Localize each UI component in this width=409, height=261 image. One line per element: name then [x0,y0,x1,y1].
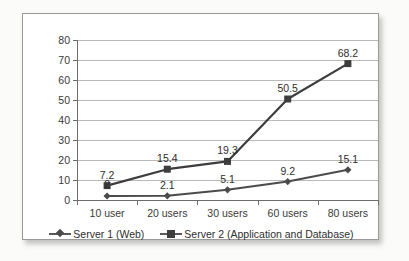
legend-label-server-1: Server 1 (Web) [73,228,144,240]
legend-marker-diamond-icon [49,228,71,239]
data-point-marker-square[interactable] [164,166,171,173]
y-axis-tick-mark [73,180,77,181]
y-axis-tick-mark [73,160,77,161]
legend-label-server-2: Server 2 (Application and Database) [184,228,353,240]
legend-marker-square-icon [160,228,182,239]
y-axis-tick-mark [73,80,77,81]
data-label-server-1: 9.2 [265,166,311,177]
chart-frame: 01020304050607080 10 user20 users30 user… [22,13,379,240]
data-point-marker-square[interactable] [284,96,291,103]
y-axis-tick-mark [73,60,77,61]
data-label-server-1: 2.1 [144,180,190,191]
y-axis-tick-mark [73,40,77,41]
y-axis-tick-mark [73,120,77,121]
data-point-marker-diamond[interactable] [284,178,291,185]
y-axis-tick-mark [73,100,77,101]
chart-legend: Server 1 (Web) Server 2 (Application and… [23,226,380,241]
y-axis-tick-mark [73,200,77,201]
data-point-marker-square[interactable] [344,60,351,67]
legend-entry-server-1[interactable]: Server 1 (Web) [49,228,144,240]
y-axis-tick-mark [73,140,77,141]
data-label-server-1: 2 [84,179,130,190]
series-line-2 [107,64,348,186]
data-label-server-1: 15.1 [325,154,371,165]
data-point-marker-diamond[interactable] [104,192,111,199]
data-label-server-2: 50.5 [265,83,311,94]
data-point-marker-diamond[interactable] [164,192,171,199]
data-label-server-2: 15.4 [144,153,190,164]
data-point-marker-diamond[interactable] [224,186,231,193]
data-point-marker-square[interactable] [224,158,231,165]
data-label-server-2: 19.3 [205,145,251,156]
data-label-server-1: 5.1 [205,174,251,185]
legend-entry-server-2[interactable]: Server 2 (Application and Database) [160,228,353,240]
data-point-marker-diamond[interactable] [344,166,351,173]
data-label-server-2: 68.2 [325,48,371,59]
